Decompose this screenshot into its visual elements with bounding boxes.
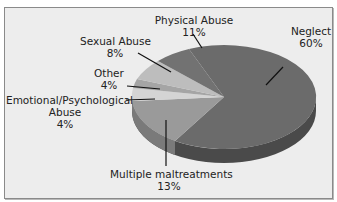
label-emotional-abuse: Emotional/Psychological Abuse 4%	[6, 94, 124, 130]
label-name: Neglect	[288, 25, 334, 37]
pie-top	[132, 45, 316, 149]
label-name: Other	[92, 67, 126, 79]
label-pct: 11%	[148, 26, 240, 38]
label-pct: 60%	[288, 37, 334, 49]
label-name: Emotional/Psychological	[6, 94, 124, 106]
label-multiple-maltreatments: Multiple maltreatments 13%	[110, 168, 228, 192]
label-other: Other 4%	[92, 67, 126, 91]
label-pct: 8%	[80, 47, 150, 59]
label-physical-abuse: Physical Abuse 11%	[148, 14, 240, 38]
label-neglect: Neglect 60%	[288, 25, 334, 49]
label-sexual-abuse: Sexual Abuse 8%	[80, 35, 150, 59]
label-name: Multiple maltreatments	[110, 168, 228, 180]
label-pct: 4%	[92, 79, 126, 91]
label-pct: 4%	[6, 118, 124, 130]
label-pct: 13%	[110, 180, 228, 192]
label-name-2: Abuse	[6, 106, 124, 118]
label-name: Sexual Abuse	[80, 35, 150, 47]
label-name: Physical Abuse	[148, 14, 240, 26]
